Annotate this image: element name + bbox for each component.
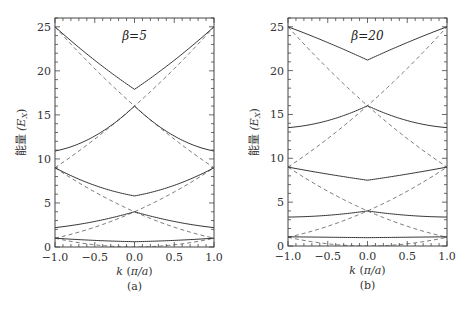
energy-band [288, 167, 447, 180]
y-tick-label: 0 [44, 241, 51, 254]
energy-band [55, 238, 214, 242]
energy-band [288, 211, 447, 217]
y-tick-label: 10 [37, 153, 51, 166]
energy-band [55, 212, 214, 228]
plot-area [55, 27, 214, 247]
x-tick-label: 0.5 [399, 250, 417, 263]
band-structure-figure: −1.0−0.50.00.51.00510152025β=5k (π/a)(a)… [0, 0, 470, 309]
panel-title: β=5 [121, 29, 147, 43]
y-tick-label: 0 [277, 240, 284, 253]
panel-b: −1.0−0.50.00.51.00510152025β=20k (π/a)(b… [247, 18, 456, 292]
x-tick-label: −0.5 [81, 251, 108, 264]
y-tick-label: 5 [44, 197, 51, 210]
y-axis-label: 能量 (EX) [247, 108, 262, 156]
x-axis-label: k (π/a) [349, 264, 385, 277]
y-tick-label: 15 [37, 109, 51, 122]
energy-band [288, 106, 447, 128]
energy-band [55, 106, 214, 151]
panel-title: β=20 [350, 29, 384, 43]
y-tick-label: 10 [270, 152, 284, 165]
y-tick-label: 20 [37, 65, 51, 78]
y-axis-label: 能量 (EX) [14, 109, 29, 157]
y-tick-label: 15 [270, 108, 284, 121]
dashed-parabola [288, 167, 447, 237]
x-tick-label: 0.5 [166, 251, 184, 264]
panel-label: (b) [360, 279, 376, 292]
dashed-parabola [55, 168, 214, 238]
dashed-parabola [288, 27, 447, 167]
panel-a: −1.0−0.50.00.51.00510152025β=5k (π/a)(a)… [14, 18, 223, 293]
y-tick-label: 25 [270, 21, 284, 34]
energy-band [55, 168, 214, 196]
x-tick-label: 1.0 [205, 251, 223, 264]
y-tick-label: 25 [37, 21, 51, 34]
dashed-parabola [55, 168, 214, 238]
x-tick-label: 0.0 [359, 250, 377, 263]
dashed-parabola [288, 167, 447, 237]
x-tick-label: −0.5 [314, 250, 341, 263]
y-tick-label: 5 [277, 196, 284, 209]
energy-band [288, 237, 447, 238]
y-tick-label: 20 [270, 65, 284, 78]
x-tick-label: 0.0 [126, 251, 144, 264]
panel-label: (a) [127, 280, 142, 293]
x-axis-label: k (π/a) [116, 265, 152, 278]
x-tick-label: 1.0 [438, 250, 456, 263]
dashed-parabola [288, 27, 447, 167]
plot-area [288, 27, 447, 246]
